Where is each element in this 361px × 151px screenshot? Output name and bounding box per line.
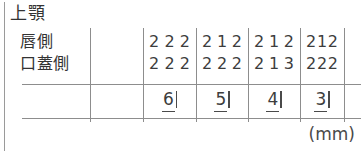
unit-label: (mm) [309,124,355,145]
depth-digit: 1 [317,31,327,52]
depth-cell-palatal-tooth3: 2 2 2 [300,53,344,74]
periodontal-chart-table: 上顎 唇側 口蓋側 2 2 2 2 2 2 2 1 2 2 2 2 2 1 2 … [0,0,361,151]
depth-cell-labial-tooth5: 2 1 2 [196,31,248,52]
depth-cell-palatal-tooth4: 2 1 3 [248,53,300,74]
depth-digit: 2 [180,53,190,74]
depth-cell-labial-tooth4: 2 1 2 [248,31,300,52]
depth-digit: 2 [232,31,242,52]
depth-digit: 3 [284,53,294,74]
tooth-number-label: 5 [214,89,227,112]
tooth-number-6: 6 [143,89,196,112]
row-label-labial: 唇側 [20,31,53,52]
depth-digit: 2 [180,31,190,52]
depth-digit: 2 [202,53,212,74]
depth-digit: 2 [149,31,159,52]
depth-digit: 1 [269,31,279,52]
quadrant-tick-icon [228,91,229,108]
depth-digit: 2 [317,53,327,74]
tooth-number-4: 4 [248,89,300,112]
depth-cell-palatal-tooth6: 2 2 2 [143,53,196,74]
depth-cell-palatal-tooth5: 2 2 2 [196,53,248,74]
depth-digit: 2 [149,53,159,74]
depth-digit: 1 [217,31,227,52]
horizontal-rule-lower [22,118,361,119]
depth-cell-labial-tooth3: 2 1 2 [300,31,344,52]
depth-digit: 2 [232,53,242,74]
depth-digit: 2 [328,31,338,52]
vertical-divider-4 [344,28,345,122]
depth-cell-labial-tooth6: 2 2 2 [143,31,196,52]
depth-digit: 2 [284,31,294,52]
depth-digit: 2 [202,31,212,52]
depth-digit: 1 [269,53,279,74]
tooth-number-label: 4 [266,89,279,112]
depth-digit: 2 [217,53,227,74]
depth-digit: 2 [306,53,316,74]
page-title: 上顎 [10,2,45,24]
depth-digit: 2 [254,53,264,74]
depth-digit: 2 [306,31,316,52]
tooth-number-label: 6 [162,89,175,112]
left-border-line [4,2,5,151]
tooth-number-label: 3 [314,89,327,112]
depth-digit: 2 [254,31,264,52]
quadrant-tick-icon [176,91,177,108]
row-label-palatal: 口蓋側 [20,53,70,74]
depth-digit: 2 [328,53,338,74]
tooth-number-5: 5 [196,89,248,112]
quadrant-tick-icon [328,91,329,108]
vertical-divider-label [90,28,91,122]
depth-digit: 2 [164,31,174,52]
depth-digit: 2 [164,53,174,74]
tooth-number-3: 3 [300,89,344,112]
quadrant-tick-icon [280,91,281,108]
horizontal-rule-upper [22,84,361,85]
